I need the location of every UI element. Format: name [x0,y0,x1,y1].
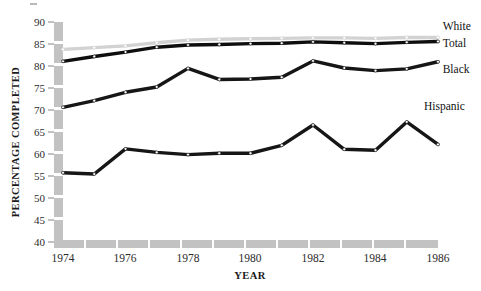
data-point [437,60,440,63]
data-point [218,78,221,81]
data-point [343,148,346,151]
data-point [187,44,190,47]
data-point [62,171,65,174]
x-tick-label: 1974 [52,252,75,264]
y-tick-label: 40 [34,236,46,248]
data-point [343,36,346,39]
data-point [405,67,408,70]
data-point [312,59,315,62]
series-layer [62,36,440,175]
data-point [155,86,158,89]
data-point [187,39,190,42]
y-tick-label: 85 [34,38,46,50]
data-point [374,42,377,45]
data-point [155,41,158,44]
data-point [62,106,65,109]
y-axis-band [54,22,63,243]
data-point [249,37,252,40]
series-label-layer: WhiteTotalBlackHispanic [424,20,471,113]
data-point [93,173,96,176]
data-point [280,144,283,147]
series-hispanic [62,120,440,175]
data-point [312,40,315,43]
data-point [405,120,408,123]
data-point [218,152,221,155]
data-point [249,152,252,155]
y-tick-label: 65 [34,126,46,138]
series-black [62,59,440,108]
data-point [280,76,283,79]
data-point [280,37,283,40]
x-axis-band [54,240,438,248]
data-point [249,78,252,81]
y-tick-label: 75 [34,82,46,94]
data-point [437,36,440,39]
data-point [405,36,408,39]
data-point [93,99,96,102]
series-label-white: White [443,20,471,32]
data-point [187,67,190,70]
x-tick-label: 1984 [364,252,387,264]
y-axis-title: PERCENTAGE COMPLETED [10,67,21,217]
data-point [405,41,408,44]
data-point [343,41,346,44]
data-point [124,91,127,94]
series-label-total: Total [443,37,466,49]
data-point [218,38,221,41]
y-axis-ticks [48,21,54,243]
data-point [155,46,158,49]
x-tick-labels: 1974 1976 1978 1980 1982 1984 1986 [52,252,450,264]
data-point [374,69,377,72]
x-tick-label: 1986 [427,252,450,264]
data-point [124,51,127,54]
y-tick-label: 50 [34,192,46,204]
data-point [62,48,65,51]
data-point [374,149,377,152]
data-point [155,151,158,154]
series-label-black: Black [443,63,470,75]
series-label-hispanic: Hispanic [424,100,465,113]
data-point [62,60,65,63]
data-point [374,37,377,40]
data-point [312,124,315,127]
data-point [437,143,440,146]
data-point [218,43,221,46]
scan-artifact [30,3,37,5]
data-point [93,46,96,49]
data-point [280,42,283,45]
series-line [63,61,438,107]
y-tick-label: 70 [34,104,46,116]
data-point [124,147,127,150]
x-axis-title: YEAR [234,270,265,281]
series-line [63,122,438,174]
data-point [249,42,252,45]
data-point [93,55,96,58]
x-tick-label: 1982 [302,252,325,264]
y-tick-label: 60 [34,148,46,160]
y-tick-label: 45 [34,214,46,226]
data-point [187,153,190,156]
chart-figure: 90 85 80 75 70 65 60 55 50 45 40 1974 19… [0,0,481,291]
line-chart: 90 85 80 75 70 65 60 55 50 45 40 1974 19… [0,0,481,291]
data-point [312,36,315,39]
data-point [343,67,346,70]
y-tick-label: 90 [34,16,46,28]
data-point [124,44,127,47]
series-total [62,40,440,63]
x-tick-label: 1980 [239,252,262,264]
data-point [437,40,440,43]
y-tick-label: 55 [34,170,46,182]
x-tick-label: 1976 [114,252,137,264]
y-tick-label: 80 [34,60,46,72]
y-tick-labels: 90 85 80 75 70 65 60 55 50 45 40 [34,16,46,248]
x-tick-label: 1978 [177,252,200,264]
